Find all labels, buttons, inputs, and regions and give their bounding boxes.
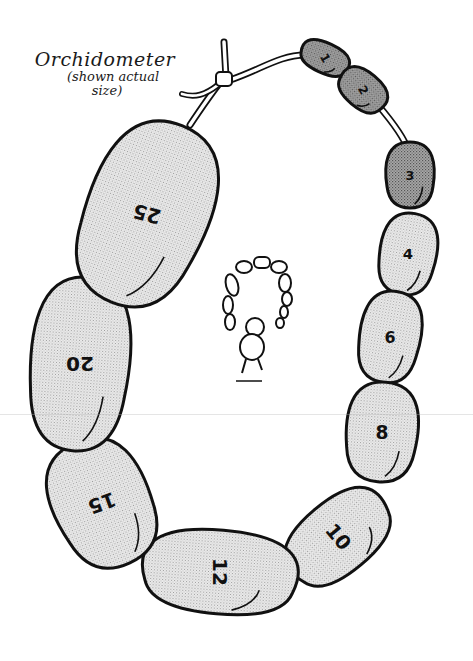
bead-3: 3 — [386, 142, 435, 208]
bead-6: 6 — [352, 286, 428, 387]
orchidometer-illustration: 1234681012152025 — [0, 0, 473, 661]
scan-artifact-line — [0, 414, 473, 415]
bead-label: 6 — [384, 328, 395, 347]
bead-label: 20 — [66, 352, 94, 376]
bead-label: 3 — [406, 168, 415, 183]
bead-8: 8 — [342, 379, 422, 485]
bead-label: 4 — [403, 245, 413, 263]
knot-icon — [216, 72, 232, 86]
bead-label: 12 — [208, 558, 232, 586]
bead-4: 4 — [373, 209, 443, 300]
bead-label: 8 — [375, 422, 388, 443]
cartoon-figure-icon — [223, 257, 292, 381]
bead-12: 12 — [139, 523, 302, 620]
